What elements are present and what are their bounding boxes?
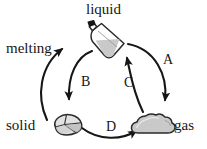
transition-label-c: C: [124, 76, 133, 90]
phase-change-diagram: liquid solid gas melting B A C D: [0, 0, 207, 149]
cloud-icon: [131, 114, 175, 133]
transition-label-a: A: [163, 53, 173, 67]
arrow-a-liquid-to-gas: [128, 44, 165, 100]
rock-crystal-icon: [55, 114, 82, 135]
transition-label-b: B: [81, 75, 90, 89]
state-label-solid: solid: [6, 118, 35, 133]
transition-label-melting: melting: [6, 41, 52, 56]
arrow-melting-solid-to-liquid: [41, 49, 62, 120]
flask-bottle-icon: [88, 21, 124, 58]
state-label-liquid: liquid: [86, 2, 121, 17]
state-label-gas: gas: [174, 118, 194, 133]
transition-label-d: D: [106, 120, 116, 134]
